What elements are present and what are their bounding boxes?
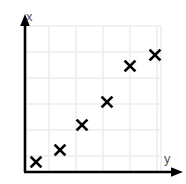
vertical-axis-label: x: [26, 10, 33, 23]
grid-lines: [25, 26, 161, 172]
data-point-marker: [77, 120, 88, 131]
data-point-marker: [150, 50, 161, 61]
horizontal-axis-arrowhead: [171, 167, 183, 177]
scatter-plot-figure: x y: [0, 0, 186, 184]
axis-lines: [20, 14, 183, 177]
data-point-marker: [31, 157, 42, 168]
data-point-marker: [55, 145, 66, 156]
plot-canvas: [0, 0, 186, 184]
data-point-markers: [31, 50, 161, 168]
horizontal-axis-label: y: [164, 152, 171, 165]
